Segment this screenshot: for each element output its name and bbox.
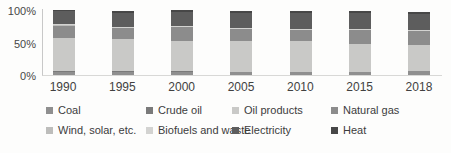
segment-electricity-1990 <box>53 11 75 24</box>
segment-coal-1995 <box>112 72 134 75</box>
plot-area <box>42 9 442 76</box>
legend-item-coal: Coal <box>46 104 146 116</box>
y-tick-0: 0% <box>20 70 36 82</box>
legend: CoalCrude oilOil productsNatural gasWind… <box>46 104 451 136</box>
segment-oil-products-2018 <box>408 45 430 71</box>
segment-coal-2018 <box>408 71 430 75</box>
bar-1995 <box>108 11 138 75</box>
chart-area: 100% 50% 0% 1990199520002005201020152018 <box>0 9 451 94</box>
legend-swatch-crude-oil <box>146 107 153 114</box>
x-tick-2010: 2010 <box>285 80 315 94</box>
legend-swatch-heat <box>331 127 338 134</box>
plot-column: 1990199520002005201020152018 <box>42 9 442 94</box>
y-tick-100: 100% <box>8 5 36 17</box>
bar-2005 <box>226 11 256 75</box>
segment-natural-gas-2010 <box>290 30 312 41</box>
legend-swatch-natural-gas <box>331 107 338 114</box>
x-tick-2018: 2018 <box>404 80 434 94</box>
segment-coal-1990 <box>53 72 75 75</box>
legend-swatch-wind-solar-etc <box>46 127 53 134</box>
x-tick-1995: 1995 <box>107 80 137 94</box>
x-tick-1990: 1990 <box>48 80 78 94</box>
segment-natural-gas-2018 <box>408 31 430 45</box>
legend-swatch-biofuels-and-waste <box>146 127 153 134</box>
bar-2018 <box>404 12 434 75</box>
segment-natural-gas-2000 <box>171 27 193 41</box>
y-tick-50: 50% <box>14 38 36 50</box>
segment-oil-products-2010 <box>290 41 312 72</box>
legend-swatch-electricity <box>232 127 239 134</box>
x-tick-2000: 2000 <box>167 80 197 94</box>
segment-electricity-2010 <box>290 13 312 29</box>
legend-label-heat: Heat <box>343 124 366 136</box>
segment-oil-products-2000 <box>171 41 193 72</box>
segment-oil-products-2005 <box>230 41 252 71</box>
legend-label-oil-products: Oil products <box>244 104 303 116</box>
legend-swatch-oil-products <box>232 107 239 114</box>
legend-label-natural-gas: Natural gas <box>343 104 399 116</box>
segment-coal-2010 <box>290 72 312 75</box>
x-tick-2005: 2005 <box>226 80 256 94</box>
y-axis: 100% 50% 0% <box>0 9 42 76</box>
segment-electricity-2000 <box>171 12 193 26</box>
legend-label-crude-oil: Crude oil <box>158 104 202 116</box>
legend-item-biofuels-and-waste: Biofuels and waste <box>146 124 232 136</box>
segment-natural-gas-1995 <box>112 28 134 40</box>
segment-natural-gas-2005 <box>230 29 252 42</box>
bar-2010 <box>286 11 316 75</box>
x-tick-2015: 2015 <box>345 80 375 94</box>
legend-item-oil-products: Oil products <box>232 104 331 116</box>
legend-item-crude-oil: Crude oil <box>146 104 232 116</box>
segment-electricity-2005 <box>230 13 252 28</box>
segment-oil-products-1990 <box>53 38 75 71</box>
segment-coal-2015 <box>349 72 371 75</box>
bar-2015 <box>345 11 375 75</box>
legend-item-electricity: Electricity <box>232 124 331 136</box>
segment-oil-products-1995 <box>112 39 134 71</box>
segment-natural-gas-1990 <box>53 26 75 39</box>
bar-1990 <box>49 10 79 75</box>
segment-electricity-2018 <box>408 14 430 30</box>
segment-electricity-2015 <box>349 13 371 29</box>
segment-electricity-1995 <box>112 13 134 27</box>
x-axis-labels: 1990199520002005201020152018 <box>42 80 442 94</box>
bar-2000 <box>167 10 197 75</box>
legend-label-electricity: Electricity <box>244 124 291 136</box>
legend-swatch-coal <box>46 107 53 114</box>
legend-item-heat: Heat <box>331 124 451 136</box>
legend-item-natural-gas: Natural gas <box>331 104 451 116</box>
segment-natural-gas-2015 <box>349 30 371 44</box>
segment-coal-2000 <box>171 72 193 75</box>
stacked-bar-chart-figure: 100% 50% 0% 1990199520002005201020152018… <box>0 0 451 153</box>
segment-coal-2005 <box>230 72 252 75</box>
segment-oil-products-2015 <box>349 44 371 71</box>
legend-item-wind-solar-etc: Wind, solar, etc. <box>46 124 146 136</box>
legend-label-coal: Coal <box>58 104 81 116</box>
legend-label-wind-solar-etc: Wind, solar, etc. <box>58 124 136 136</box>
